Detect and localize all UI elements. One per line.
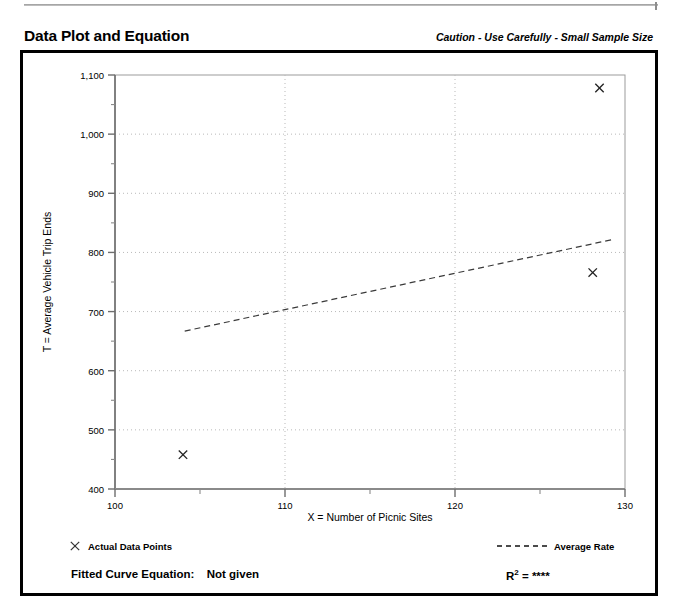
x-axis-tick-label: 130 — [617, 500, 633, 511]
caution-note: Caution - Use Carefully - Small Sample S… — [436, 31, 653, 43]
fitted-curve-equation: Fitted Curve Equation: Not given — [71, 568, 259, 580]
legend-actual-data-points-label: Actual Data Points — [88, 541, 172, 552]
y-axis-tick-label: 600 — [88, 365, 104, 376]
r-squared-block: R2 = **** — [506, 568, 550, 582]
x-axis-tick-label: 100 — [107, 500, 123, 511]
figure-page: Data Plot and Equation Caution - Use Car… — [0, 0, 674, 614]
page-top-rule-end-mark — [655, 2, 657, 10]
y-axis-tick-label: 1,100 — [80, 70, 104, 81]
y-axis-tick-label: 800 — [88, 247, 104, 258]
y-axis-tick-label: 900 — [88, 188, 104, 199]
y-axis-tick-label: 400 — [88, 484, 104, 495]
r-squared-equals: = — [522, 570, 529, 582]
x-axis-tick-label: 110 — [277, 500, 292, 511]
page-title: Data Plot and Equation — [24, 27, 189, 45]
r-squared-exponent: 2 — [514, 568, 518, 577]
page-top-rule — [24, 4, 658, 6]
fitted-curve-equation-label: Fitted Curve Equation: — [71, 568, 194, 580]
x-axis-tick-label: 120 — [447, 500, 463, 511]
legend-average-rate-label: Average Rate — [554, 541, 614, 552]
fitted-curve-equation-value: Not given — [207, 568, 259, 580]
y-axis-title: T = Average Vehicle Trip Ends — [41, 212, 53, 353]
y-axis-tick-label: 1,000 — [80, 129, 104, 140]
y-axis-tick-label: 700 — [88, 306, 104, 317]
r-squared-value: **** — [532, 570, 550, 582]
x-axis-title: X = Number of Picnic Sites — [307, 511, 432, 523]
y-axis-tick-label: 500 — [88, 424, 104, 435]
